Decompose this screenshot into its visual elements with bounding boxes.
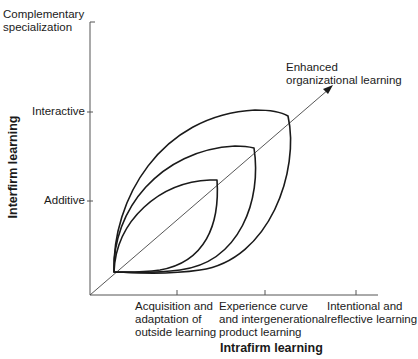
x-tick-label-experience: Experience curve and intergenerational p… xyxy=(219,300,327,339)
y-tick-label-line: specialization xyxy=(3,21,87,34)
x-tick-label-intentional: Intentional and reflective learning xyxy=(327,300,417,326)
diagonal-arrow-label: Enhanced organizational learning xyxy=(286,61,402,87)
x-tick-label-line: Acquisition and xyxy=(135,300,216,313)
x-tick-label-line: outside learning xyxy=(135,326,216,339)
x-tick-label-line: Experience curve xyxy=(219,300,327,313)
y-tick-label-line: Complementary xyxy=(3,8,87,21)
x-tick-label-line: adaptation of xyxy=(135,313,216,326)
y-axis-title: Interfirm learning xyxy=(6,116,20,219)
x-tick-label-line: and intergenerational xyxy=(219,313,327,326)
lens-medium xyxy=(114,146,256,273)
x-tick-label-acquisition: Acquisition and adaptation of outside le… xyxy=(135,300,216,339)
x-tick-label-line: product learning xyxy=(219,326,327,339)
x-axis-title: Intrafirm learning xyxy=(220,341,323,355)
lens-small xyxy=(114,180,217,272)
x-tick-label-line: Intentional and xyxy=(327,300,417,313)
diagonal-arrow-label-line: Enhanced xyxy=(286,61,402,74)
lens-large xyxy=(114,110,291,273)
y-tick-label-complementary: Complementary specialization xyxy=(3,8,87,34)
diagonal-arrow-label-line: organizational learning xyxy=(286,74,402,87)
x-tick-label-line: reflective learning xyxy=(327,313,417,326)
